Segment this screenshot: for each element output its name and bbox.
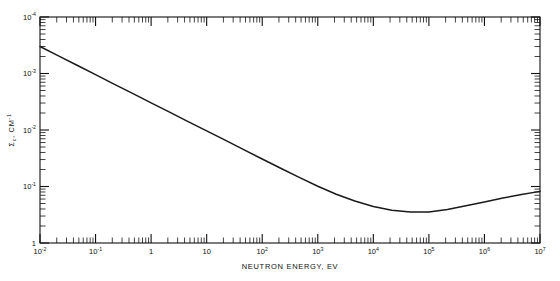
- x-tick-label: 10-1: [89, 246, 102, 256]
- data-curve: [40, 47, 540, 213]
- x-tick-label: 107: [534, 246, 545, 256]
- y-axis-title: Σc, CM-1: [6, 113, 17, 146]
- y-tick-label: 10-3: [23, 68, 36, 78]
- log-log-plot: 10-210-1110102103104105106107 110-110-21…: [0, 0, 560, 281]
- x-tick-label: 106: [479, 246, 490, 256]
- x-tick-label: 105: [423, 246, 434, 256]
- x-axis-title: NEUTRON ENERGY, EV: [242, 262, 339, 271]
- y-tick-label: 1: [32, 239, 36, 248]
- y-tick-label: 10-1: [23, 181, 36, 191]
- y-tick-label: 10-4: [23, 11, 36, 21]
- figure-container: 10-210-1110102103104105106107 110-110-21…: [0, 0, 560, 281]
- x-tick-label: 102: [257, 246, 268, 256]
- x-tick-label: 1: [149, 247, 153, 256]
- x-tick-labels: 10-210-1110102103104105106107: [34, 246, 546, 256]
- y-tick-labels: 110-110-210-310-4: [23, 11, 36, 247]
- axis-ticks: [40, 17, 540, 243]
- x-tick-label: 104: [368, 246, 379, 256]
- x-tick-label: 103: [312, 246, 323, 256]
- plot-frame: [40, 17, 540, 243]
- x-tick-label: 10: [202, 247, 210, 256]
- y-tick-label: 10-2: [23, 124, 36, 134]
- svg-text:Σc, CM-1: Σc, CM-1: [6, 113, 17, 146]
